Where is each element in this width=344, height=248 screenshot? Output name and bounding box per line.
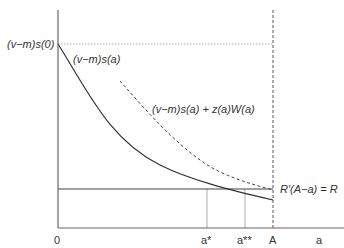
solid-curve: [58, 44, 273, 200]
y-intercept-label: (v−m)s(0): [7, 38, 55, 50]
diagram-canvas: (v−m)s(0) (v−m)s(a) (v−m)s(a) + z(a)W(a)…: [0, 0, 344, 248]
r-line-label: R′(A−a) = R: [280, 183, 338, 195]
dashed-curve: [120, 81, 273, 190]
origin-label: 0: [54, 234, 60, 246]
a-star-label: a*: [201, 234, 212, 246]
a-star-star-label: a**: [237, 234, 252, 246]
dashed-curve-label: (v−m)s(a) + z(a)W(a): [152, 103, 255, 115]
a-boundary-label: A: [269, 234, 277, 246]
x-axis-label: a: [316, 234, 323, 246]
solid-curve-label: (v−m)s(a): [73, 53, 121, 65]
